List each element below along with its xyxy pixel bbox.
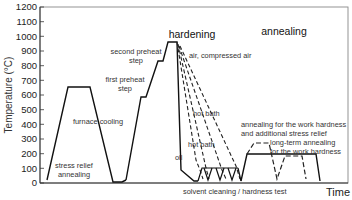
annotation-stress-relief: stress relief bbox=[55, 161, 94, 170]
heat-treatment-chart: 0 100 200 300 400 500 600 700 800 900 10… bbox=[0, 0, 352, 200]
y-tick-label: 1100 bbox=[17, 16, 37, 27]
y-tick-label: 800 bbox=[21, 60, 37, 71]
y-tick-label: 1200 bbox=[16, 1, 37, 12]
y-ticks bbox=[40, 7, 44, 183]
annotation-first-preheat: step bbox=[118, 84, 132, 93]
annotation-second-preheat: second preheat bbox=[111, 47, 162, 56]
annotation-long-term-annealing: long-term annealing bbox=[270, 138, 335, 147]
annotation-long-term-annealing: for the work hardness bbox=[270, 147, 341, 156]
y-axis-title: Temperature (°C) bbox=[3, 57, 14, 134]
annotation-first-preheat: first preheat bbox=[105, 75, 144, 84]
annotation-hot-bath: hot bath bbox=[188, 140, 215, 149]
annotation-solvent-cleaning: solvent cleaning / hardness test bbox=[183, 187, 287, 196]
y-tick-label: 100 bbox=[21, 163, 37, 174]
chart-canvas: 0 100 200 300 400 500 600 700 800 900 10… bbox=[0, 0, 352, 200]
y-tick-labels: 0 100 200 300 400 500 600 700 800 900 10… bbox=[16, 1, 37, 188]
annotation-furnace-cooling: furnace cooling bbox=[73, 117, 123, 126]
annotation-hot-bath: hot bath bbox=[193, 109, 220, 118]
annotation-stress-relief: annealing bbox=[58, 170, 90, 179]
x-axis-title: Time bbox=[326, 186, 350, 198]
section-label-hardening: hardening bbox=[169, 28, 216, 40]
annotation-second-preheat: step bbox=[129, 56, 143, 65]
y-tick-label: 200 bbox=[21, 148, 37, 159]
section-label-annealing: annealing bbox=[261, 25, 307, 37]
y-tick-label: 1000 bbox=[16, 31, 37, 42]
y-tick-label: 900 bbox=[21, 45, 37, 56]
y-tick-label: 700 bbox=[21, 75, 37, 86]
y-tick-label: 500 bbox=[21, 104, 37, 115]
y-tick-label: 600 bbox=[21, 89, 37, 100]
y-tick-label: 300 bbox=[21, 133, 37, 144]
annotation-air-quench: air, compressed air bbox=[189, 51, 252, 60]
y-tick-label: 400 bbox=[21, 119, 37, 130]
annotation-annealing-work-hardness: and additional stress relief bbox=[241, 129, 328, 138]
annotation-annealing-work-hardness: annealing for the work hardness bbox=[241, 120, 346, 129]
y-tick-label: 0 bbox=[32, 177, 37, 188]
annotation-oil: oil bbox=[175, 153, 183, 162]
